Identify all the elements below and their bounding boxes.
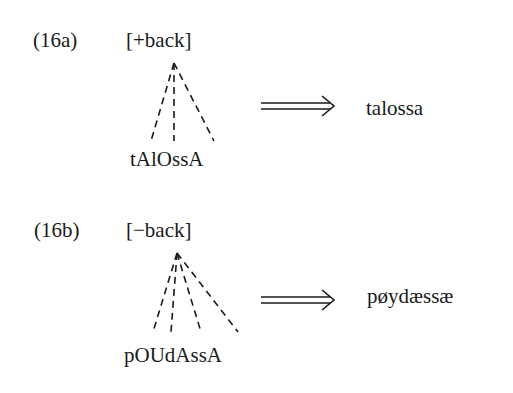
association-line <box>174 63 214 141</box>
association-line <box>177 253 238 332</box>
association-line <box>151 63 174 141</box>
double-arrow-icon <box>261 96 334 116</box>
association-line <box>177 253 201 332</box>
association-diagram <box>0 0 513 393</box>
double-arrow-icon <box>261 290 334 310</box>
